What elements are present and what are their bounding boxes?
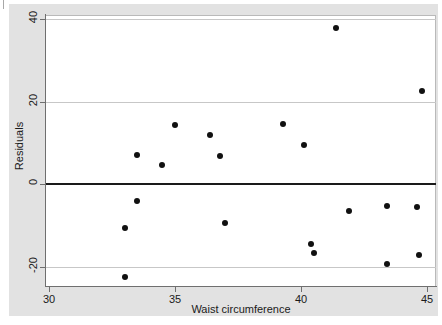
y-axis-title: Residuals bbox=[13, 91, 25, 201]
zero-reference-line bbox=[46, 183, 436, 185]
gridline bbox=[46, 267, 436, 268]
x-axis-tick bbox=[301, 286, 302, 292]
data-point bbox=[311, 250, 317, 256]
y-axis-tick bbox=[40, 102, 46, 103]
x-axis-line bbox=[45, 286, 437, 287]
gridline bbox=[46, 19, 436, 20]
data-point bbox=[414, 204, 420, 210]
x-axis-tick bbox=[427, 286, 428, 292]
data-point bbox=[308, 241, 314, 247]
data-point bbox=[172, 122, 178, 128]
y-axis-line bbox=[45, 14, 46, 287]
residual-plot-figure: -200204030354045 Waist circumference Res… bbox=[0, 0, 442, 325]
plot-area bbox=[46, 15, 436, 286]
gridline bbox=[46, 102, 436, 103]
y-axis-tick bbox=[40, 184, 46, 185]
data-point bbox=[122, 274, 128, 280]
x-axis-tick bbox=[49, 286, 50, 292]
data-point bbox=[384, 203, 390, 209]
y-axis-tick-label: 0 bbox=[27, 167, 39, 197]
y-axis-tick-label: -20 bbox=[27, 250, 39, 280]
y-axis-tick-label: 20 bbox=[27, 85, 39, 115]
x-axis-tick bbox=[175, 286, 176, 292]
data-point bbox=[346, 208, 352, 214]
data-point bbox=[301, 142, 307, 148]
corner-tick-mark bbox=[3, 0, 4, 9]
y-axis-tick-label: 40 bbox=[27, 2, 39, 32]
y-axis-tick bbox=[40, 267, 46, 268]
data-point bbox=[384, 261, 390, 267]
data-point bbox=[122, 225, 128, 231]
x-axis-title: Waist circumference bbox=[46, 303, 436, 315]
y-axis-tick bbox=[40, 19, 46, 20]
